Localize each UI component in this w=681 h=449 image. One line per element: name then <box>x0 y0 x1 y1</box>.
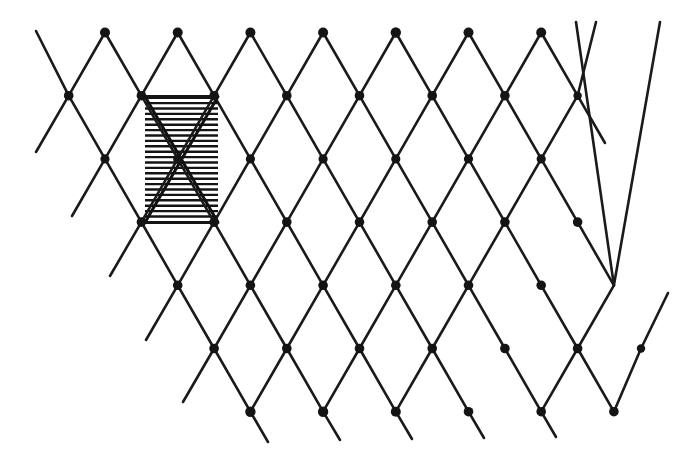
lattice-node <box>536 407 546 417</box>
lattice-node <box>318 281 328 291</box>
lattice-node <box>536 28 546 38</box>
lattice-diagram <box>0 0 681 449</box>
lattice-node <box>209 217 219 227</box>
lattice-node <box>427 344 437 354</box>
lattice-node <box>391 154 400 163</box>
lattice-node <box>282 344 292 354</box>
lattice-node <box>282 217 292 227</box>
lattice-node <box>319 154 328 163</box>
lattice-node <box>609 407 619 417</box>
lattice-node <box>427 217 437 227</box>
lattice-node <box>500 344 510 354</box>
figure-canvas <box>0 0 681 449</box>
lattice-node <box>173 281 183 291</box>
lattice-node <box>536 281 546 291</box>
lattice-node <box>573 344 583 354</box>
lattice-node <box>500 91 510 101</box>
lattice-node <box>245 407 255 417</box>
lattice-node <box>137 91 147 101</box>
lattice-node <box>173 154 182 163</box>
lattice-node <box>318 28 328 38</box>
lattice-node <box>573 92 581 100</box>
lattice-node <box>391 281 401 291</box>
lattice-node <box>464 281 474 291</box>
lattice-node <box>391 407 401 417</box>
lattice-node <box>355 91 365 101</box>
lattice-node <box>318 407 328 417</box>
lattice-node <box>355 217 365 227</box>
lattice-node <box>282 91 292 101</box>
lattice-node <box>246 154 255 163</box>
lattice-node <box>245 28 255 38</box>
lattice-node <box>173 28 183 38</box>
lattice-node <box>464 28 474 38</box>
lattice-node <box>573 217 583 227</box>
lattice-node <box>246 281 256 291</box>
lattice-node <box>209 91 219 101</box>
lattice-node <box>100 154 109 163</box>
lattice-node <box>137 217 147 227</box>
lattice-node <box>355 344 365 354</box>
lattice-node <box>64 91 74 101</box>
lattice-node <box>500 217 510 227</box>
lattice-node <box>464 154 473 163</box>
lattice-node <box>464 407 474 417</box>
lattice-node <box>209 344 219 354</box>
lattice-node <box>391 27 401 37</box>
lattice-node <box>100 28 110 38</box>
lattice-node <box>537 154 546 163</box>
lattice-node <box>427 91 437 101</box>
lattice-node <box>637 344 645 352</box>
